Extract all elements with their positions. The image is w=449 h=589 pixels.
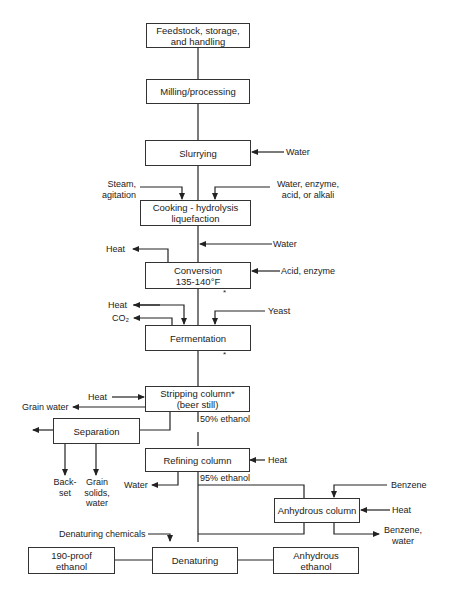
node-stripping-column: Stripping column* (beer still): [145, 386, 250, 412]
label-slurry-water: Water: [286, 147, 310, 158]
label-refining-heat: Heat: [268, 455, 287, 466]
asterisk-fermentation: *: [223, 350, 226, 359]
label-grain-water: Grain water: [22, 402, 69, 413]
node-190-proof-ethanol: 190-proof ethanol: [28, 547, 115, 574]
node-anhydrous-column: Anhydrous column: [274, 498, 360, 523]
node-refining-column: Refining column: [145, 448, 250, 472]
label-denaturing-chemicals: Denaturing chemicals: [59, 529, 146, 540]
label-cook-water: Water: [273, 239, 297, 250]
label-50-ethanol: 50% ethanol: [200, 414, 250, 425]
label-grain-solids: Grain solids, water: [80, 477, 114, 509]
node-conversion: Conversion 135-140°F: [145, 262, 251, 289]
asterisk-conversion: *: [223, 288, 226, 297]
label-acid-enzyme: Acid, enzyme: [281, 266, 335, 277]
label-co2: CO₂: [112, 313, 129, 324]
label-anhydrous-heat: Heat: [392, 505, 411, 516]
label-steam-agitation: Steam, agitation: [90, 179, 136, 200]
label-benzene-water: Benzene, water: [380, 525, 426, 546]
node-fermentation: Fermentation: [145, 325, 251, 351]
label-yeast: Yeast: [268, 306, 290, 317]
node-milling: Milling/processing: [146, 79, 250, 104]
label-stripping-heat: Heat: [88, 392, 107, 403]
label-backset: Back- set: [50, 477, 80, 498]
label-benzene-in: Benzene: [391, 480, 427, 491]
label-conversion-heat: Heat: [106, 244, 125, 255]
label-95-ethanol: 95% ethanol: [200, 473, 250, 484]
label-water-enzyme: Water, enzyme, acid, or alkali: [268, 179, 348, 200]
label-refining-water: Water: [124, 480, 148, 491]
node-anhydrous-ethanol: Anhydrous ethanol: [273, 547, 359, 574]
node-feedstock: Feedstock, storage, and handling: [146, 23, 250, 48]
node-denaturing: Denaturing: [152, 547, 238, 574]
node-slurrying: Slurrying: [145, 140, 251, 166]
node-separation: Separation: [53, 418, 140, 444]
node-cooking: Cooking - hydrolysis liquefaction: [140, 200, 251, 226]
label-fermentation-heat: Heat: [108, 300, 127, 311]
